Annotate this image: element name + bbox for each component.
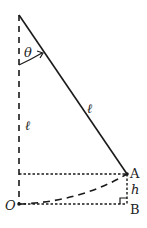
swing-arc [19,174,127,204]
string-length-label: ℓ [87,101,93,116]
height-label: h [131,182,139,197]
theta-label: θ [24,45,32,60]
origin-label: O [5,198,16,213]
pendulum-diagram: θ ℓ ℓ A h B O [0,0,147,228]
point-b-label: B [130,202,140,217]
point-a-label: A [129,166,140,181]
vertical-length-label: ℓ [25,118,31,133]
right-angle-marker [120,198,127,204]
pendulum-string [19,15,127,174]
point-a-dot [125,172,129,176]
point-o-dot [17,202,21,206]
